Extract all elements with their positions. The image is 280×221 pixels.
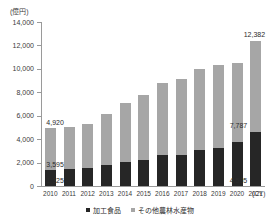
bar-segment-processed-food[interactable] xyxy=(176,155,187,186)
legend-swatch-processed-food-icon xyxy=(86,208,90,212)
y-axis-unit-label: (億円) xyxy=(10,6,29,16)
bar-segment-other-agriculture[interactable] xyxy=(101,114,112,165)
bar-group[interactable] xyxy=(250,22,261,186)
y-tick-label: 8,000 xyxy=(0,89,34,96)
bar-segment-processed-food[interactable] xyxy=(64,169,75,186)
value-label-2010-processed-food: 1,325 xyxy=(46,177,64,184)
bar-group[interactable] xyxy=(101,22,112,186)
stacked-bar-chart: (億円) 02,0004,0006,0008,00010,00012,00014… xyxy=(0,0,280,221)
bar-segment-processed-food[interactable] xyxy=(213,148,224,186)
legend-label-other-agriculture: その他農林水産物 xyxy=(138,205,194,215)
bar-group[interactable] xyxy=(138,22,149,186)
bar-segment-other-agriculture[interactable] xyxy=(213,65,224,147)
y-tick-label: 12,000 xyxy=(0,42,34,49)
y-tick-label: 6,000 xyxy=(0,112,34,119)
legend-swatch-other-agriculture-icon xyxy=(131,208,135,212)
bar-segment-other-agriculture[interactable] xyxy=(138,95,149,160)
bar-segment-processed-food[interactable] xyxy=(157,155,168,186)
bar-segment-processed-food[interactable] xyxy=(250,132,261,186)
y-tick-mark xyxy=(37,186,42,187)
bar-segment-processed-food[interactable] xyxy=(82,168,93,186)
value-label-2010-other-agriculture: 3,595 xyxy=(46,161,64,168)
bar-segment-other-agriculture[interactable] xyxy=(176,79,187,155)
x-axis-unit-label: (CY) xyxy=(252,190,265,198)
bar-segment-other-agriculture[interactable] xyxy=(232,63,243,143)
value-label-2021-processed-food: 4,595 xyxy=(230,177,248,184)
bar-segment-other-agriculture[interactable] xyxy=(194,69,205,150)
bar-segment-processed-food[interactable] xyxy=(194,150,205,186)
bar-group[interactable] xyxy=(213,22,224,186)
bar-group[interactable] xyxy=(64,22,75,186)
bar-group[interactable] xyxy=(232,22,243,186)
value-label-2021-total: 12,382 xyxy=(244,31,265,38)
y-tick-label: 4,000 xyxy=(0,136,34,143)
bar-group[interactable] xyxy=(194,22,205,186)
bar-segment-other-agriculture[interactable] xyxy=(120,103,131,162)
legend-item-processed-food[interactable]: 加工食品 xyxy=(86,205,121,215)
plot-area xyxy=(41,22,265,186)
value-label-2021-other-agriculture: 7,787 xyxy=(230,122,248,129)
bar-segment-processed-food[interactable] xyxy=(101,165,112,186)
chart-legend: 加工食品 その他農林水産物 xyxy=(0,205,280,215)
y-tick-label: 2,000 xyxy=(0,159,34,166)
bar-segment-processed-food[interactable] xyxy=(138,160,149,186)
bar-group[interactable] xyxy=(157,22,168,186)
bar-segment-other-agriculture[interactable] xyxy=(250,41,261,132)
value-label-2010-total: 4,920 xyxy=(46,119,64,126)
y-tick-label: 10,000 xyxy=(0,65,34,72)
bar-segment-other-agriculture[interactable] xyxy=(82,124,93,168)
bar-segment-other-agriculture[interactable] xyxy=(157,83,168,155)
bar-segment-other-agriculture[interactable] xyxy=(64,127,75,169)
y-tick-label: 14,000 xyxy=(0,19,34,26)
legend-label-processed-food: 加工食品 xyxy=(93,205,121,215)
x-axis-line xyxy=(41,186,265,187)
bar-group[interactable] xyxy=(176,22,187,186)
legend-item-other-agriculture[interactable]: その他農林水産物 xyxy=(131,205,194,215)
bar-group[interactable] xyxy=(82,22,93,186)
y-tick-label: 0 xyxy=(0,183,34,190)
bar-group[interactable] xyxy=(120,22,131,186)
bar-segment-processed-food[interactable] xyxy=(120,162,131,186)
